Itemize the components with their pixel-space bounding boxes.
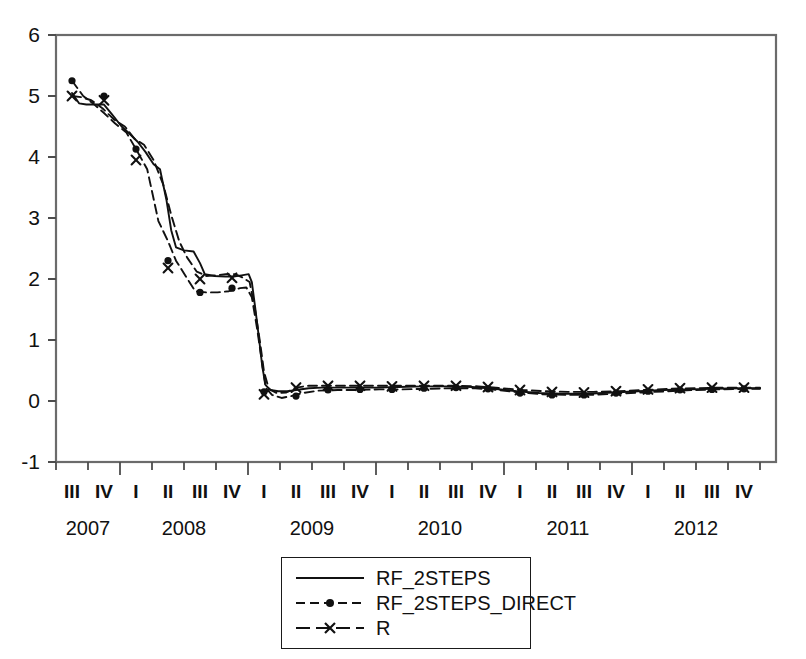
legend-item: R	[294, 615, 516, 640]
x-axis-quarter-label: IV	[727, 482, 761, 501]
x-axis-quarter-label: III	[439, 482, 473, 501]
data-point-marker-circle	[132, 145, 139, 152]
legend-label: R	[376, 618, 390, 638]
chart-legend: RF_2STEPSRF_2STEPS_DIRECTR	[281, 557, 531, 649]
y-axis-tick-label: 6	[0, 24, 40, 45]
x-axis-quarter-label: I	[503, 482, 537, 501]
x-axis-quarter-label: III	[567, 482, 601, 501]
data-point-marker-circle	[292, 393, 299, 400]
x-axis-year-label: 2011	[523, 518, 613, 538]
x-axis-year-label: 2007	[43, 518, 133, 538]
series-line-rf_2steps_direct	[68, 77, 760, 400]
y-axis-tick-label: 5	[0, 85, 40, 106]
y-axis-tick-label: 0	[0, 390, 40, 411]
legend-label: RF_2STEPS	[376, 568, 490, 588]
x-axis-quarter-label: II	[407, 482, 441, 501]
x-axis-quarter-label: II	[151, 482, 185, 501]
x-axis-quarter-label: I	[119, 482, 153, 501]
x-axis-ticks	[56, 462, 760, 475]
x-axis-quarter-label: I	[631, 482, 665, 501]
y-axis-tick-label: 3	[0, 207, 40, 228]
x-axis-quarter-label: II	[279, 482, 313, 501]
data-point-marker-circle	[164, 257, 171, 264]
x-axis-quarter-label: I	[375, 482, 409, 501]
chart-figure: 6543210-1 IIIIVIIIIIIIVIIIIIIIVIIIIIIIVI…	[0, 0, 806, 659]
dashed-circle-sample	[294, 593, 366, 613]
data-point-marker-cross	[196, 275, 205, 284]
y-axis-tick-label: -1	[0, 451, 40, 472]
y-axis-tick-label: 4	[0, 146, 40, 167]
plot-frame	[56, 35, 776, 462]
legend-item: RF_2STEPS	[294, 565, 516, 590]
y-axis-tick-label: 2	[0, 268, 40, 289]
x-axis-year-label: 2010	[395, 518, 485, 538]
solid-line-sample	[294, 568, 366, 588]
x-axis-quarter-label: III	[183, 482, 217, 501]
dashed-cross-sample	[294, 618, 366, 638]
x-axis-quarter-label: IV	[599, 482, 633, 501]
series-line-rf_2steps	[72, 93, 760, 394]
series-line-r	[68, 92, 760, 399]
x-axis-quarter-label: III	[55, 482, 89, 501]
x-axis-quarter-label: IV	[215, 482, 249, 501]
y-axis-tick-label: 1	[0, 329, 40, 350]
legend-item: RF_2STEPS_DIRECT	[294, 590, 516, 615]
x-axis-quarter-label: IV	[87, 482, 121, 501]
x-axis-quarter-label: IV	[343, 482, 377, 501]
x-axis-quarter-label: III	[311, 482, 345, 501]
x-axis-year-label: 2012	[651, 518, 741, 538]
x-axis-quarter-label: II	[663, 482, 697, 501]
x-axis-quarter-label: II	[535, 482, 569, 501]
x-axis-year-label: 2009	[267, 518, 357, 538]
x-axis-quarter-label: I	[247, 482, 281, 501]
x-axis-quarter-label: IV	[471, 482, 505, 501]
data-point-marker-cross	[132, 156, 141, 165]
x-axis-year-label: 2008	[139, 518, 229, 538]
data-point-marker-circle	[228, 285, 235, 292]
data-point-marker-circle	[196, 289, 203, 296]
y-axis-ticks	[48, 35, 56, 462]
data-point-marker-cross	[228, 273, 237, 282]
x-axis-quarter-label: III	[695, 482, 729, 501]
data-point-marker-cross	[164, 264, 173, 273]
data-point-marker-circle	[68, 77, 75, 84]
legend-label: RF_2STEPS_DIRECT	[376, 593, 576, 613]
